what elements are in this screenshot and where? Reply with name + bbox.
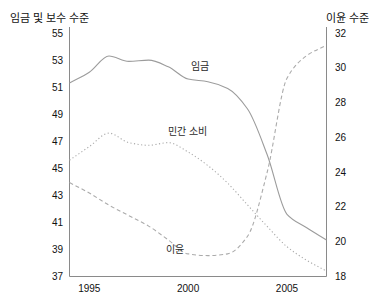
x-axis-tick-label: 1995 — [78, 283, 101, 294]
left-axis-tick-label: 39 — [52, 244, 64, 255]
chart: 임금 및 보수 수준 이윤 수준 55535149474543413937323… — [0, 0, 374, 302]
left-axis-tick-label: 47 — [52, 136, 64, 147]
x-axis-tick-label: 2005 — [276, 283, 299, 294]
right-axis-tick-label: 30 — [335, 62, 347, 73]
left-axis-tick-label: 49 — [52, 109, 64, 120]
right-axis-tick-label: 26 — [335, 132, 347, 143]
right-axis-tick-label: 20 — [335, 236, 347, 247]
right-axis-tick-label: 28 — [335, 97, 347, 108]
left-axis-tick-label: 37 — [52, 271, 64, 282]
left-axis-tick-label: 55 — [52, 28, 64, 39]
right-axis-tick-label: 22 — [335, 201, 347, 212]
series-private-consumption-label: 민간 소비 — [168, 126, 207, 137]
right-axis-tick-label: 18 — [335, 271, 347, 282]
left-axis-tick-label: 45 — [52, 163, 64, 174]
plot-area: 5553514947454341393732302826242220181995… — [0, 0, 374, 302]
series-wage-label: 임금 — [191, 60, 209, 72]
right-axis-tick-label: 32 — [335, 28, 347, 39]
series-profit-label: 이윤 — [166, 244, 184, 255]
left-axis-tick-label: 51 — [52, 82, 64, 93]
right-axis-tick-label: 24 — [335, 167, 347, 178]
series-private-consumption-line — [70, 133, 327, 271]
series-wage-line — [70, 56, 327, 240]
left-axis-tick-label: 43 — [52, 190, 64, 201]
series-profit-line — [70, 45, 327, 255]
left-axis-tick-label: 53 — [52, 55, 64, 66]
left-axis-tick-label: 41 — [52, 217, 64, 228]
x-axis-tick-label: 2000 — [177, 283, 200, 294]
